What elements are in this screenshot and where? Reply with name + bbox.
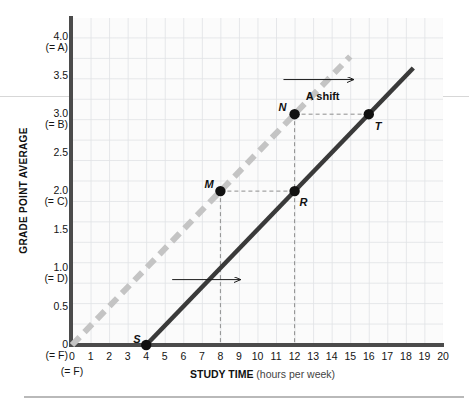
y-tick-value: 0.5 bbox=[53, 300, 68, 312]
chart-figure: 0(= F)0.51.0(= D)1.52.0(= C)2.53.0(= B)3… bbox=[0, 0, 469, 405]
x-tick-12: 12 bbox=[285, 350, 305, 362]
x-tick-18: 18 bbox=[396, 350, 416, 362]
y-tick-value: 1.5 bbox=[53, 223, 68, 235]
y-tick-grade: (= C) bbox=[2, 196, 68, 207]
y-axis-tick-labels: 0(= F)0.51.0(= D)1.52.0(= C)2.53.0(= B)3… bbox=[0, 0, 68, 405]
y-tick-grade: (= A) bbox=[2, 42, 68, 53]
point-S-label: S bbox=[133, 333, 140, 345]
y-tick-value: 2.5 bbox=[53, 146, 68, 158]
x-tick-3: 3 bbox=[118, 350, 138, 362]
x-axis-title: STUDY TIME (hours per week) bbox=[190, 368, 335, 380]
x-tick-6: 6 bbox=[173, 350, 193, 362]
x-tick-2: 2 bbox=[99, 350, 119, 362]
point-M-label: M bbox=[204, 178, 213, 190]
y-tick-0-5: 0.5 bbox=[2, 301, 68, 312]
y-tick-grade: (= D) bbox=[2, 273, 68, 284]
y-tick-value: 3.5 bbox=[53, 69, 68, 81]
x-axis-title-main: STUDY TIME bbox=[190, 368, 253, 380]
y-tick-1-0: 1.0(= D) bbox=[2, 262, 68, 284]
x-tick-20: 20 bbox=[433, 350, 453, 362]
x-tick-7: 7 bbox=[192, 350, 212, 362]
y-tick-0: 0(= F) bbox=[2, 339, 68, 361]
x-axis-line bbox=[69, 343, 444, 347]
x-tick-9: 9 bbox=[229, 350, 249, 362]
x-tick-5: 5 bbox=[155, 350, 175, 362]
x-tick-15: 15 bbox=[340, 350, 360, 362]
plot-area bbox=[72, 18, 443, 345]
x-tick-1: 1 bbox=[81, 350, 101, 362]
x-tick-grade-0: (= F) bbox=[57, 365, 87, 377]
x-tick-13: 13 bbox=[303, 350, 323, 362]
y-tick-2-0: 2.0(= C) bbox=[2, 185, 68, 207]
x-tick-11: 11 bbox=[266, 350, 286, 362]
y-axis-title: GRADE POINT AVERAGE bbox=[18, 111, 29, 271]
bottom-divider-rule bbox=[24, 396, 464, 398]
x-tick-0: 0 bbox=[62, 350, 82, 362]
y-tick-1-5: 1.5 bbox=[2, 224, 68, 235]
point-N-label: N bbox=[279, 101, 287, 113]
point-T-label: T bbox=[375, 120, 382, 132]
point-R-label: R bbox=[300, 196, 308, 208]
x-tick-10: 10 bbox=[248, 350, 268, 362]
x-axis-title-units: (hours per week) bbox=[256, 368, 335, 380]
x-tick-4: 4 bbox=[136, 350, 156, 362]
y-tick-4-0: 4.0(= A) bbox=[2, 31, 68, 53]
x-tick-16: 16 bbox=[359, 350, 379, 362]
y-tick-grade: (= B) bbox=[2, 119, 68, 130]
y-tick-3-5: 3.5 bbox=[2, 70, 68, 81]
x-tick-17: 17 bbox=[377, 350, 397, 362]
x-tick-19: 19 bbox=[414, 350, 434, 362]
y-tick-2-5: 2.5 bbox=[2, 147, 68, 158]
x-tick-8: 8 bbox=[210, 350, 230, 362]
y-axis-line bbox=[69, 16, 73, 347]
x-tick-14: 14 bbox=[322, 350, 342, 362]
y-tick-3-0: 3.0(= B) bbox=[2, 108, 68, 130]
shift-annotation-label: A shift bbox=[306, 90, 340, 102]
y-tick-grade: (= F) bbox=[2, 350, 68, 361]
